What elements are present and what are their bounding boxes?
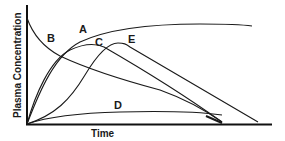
curve-label-b: B xyxy=(47,32,55,44)
curve-d xyxy=(27,112,222,124)
y-axis-label: Plasma Concentration xyxy=(12,12,23,118)
curve-label-d: D xyxy=(114,99,122,111)
curve-label-a: A xyxy=(79,23,87,35)
curve-b xyxy=(27,18,222,122)
plasma-concentration-chart: A B C E D Time Plasma Concentration xyxy=(0,0,285,141)
curve-label-e: E xyxy=(128,33,135,45)
curve-a xyxy=(27,24,252,124)
curve-label-c: C xyxy=(95,36,103,48)
x-axis-label: Time xyxy=(91,128,115,139)
